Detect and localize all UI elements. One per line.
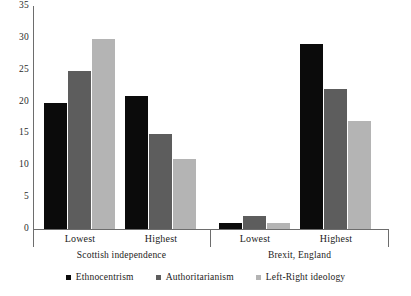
y-tick-5: 5 [24, 192, 29, 202]
category-label-brexit-highest: Highest [300, 233, 372, 245]
legend-label-left-right-ideology: Left-Right ideology [266, 272, 346, 282]
y-tick-35: 35 [19, 1, 29, 11]
bar-group-brexit-lowest [219, 6, 291, 229]
legend-swatch-icon-ethnocentrism [66, 275, 71, 280]
legend-label-authoritarianism: Authoritarianism [166, 272, 234, 282]
bar-authoritarianism-scottish-highest [149, 134, 172, 229]
bar-group-scottish-lowest [44, 6, 116, 229]
bar-left-right-ideology-brexit-lowest [267, 223, 290, 229]
bar-ethnocentrism-brexit-highest [300, 44, 323, 229]
y-tick-25: 25 [19, 65, 29, 75]
chart-legend: Ethnocentrism Authoritarianism Left-Righ… [0, 272, 411, 282]
bar-left-right-ideology-brexit-highest [348, 121, 371, 229]
panel-separator [210, 229, 211, 247]
y-tick-10: 10 [19, 161, 29, 171]
legend-swatch-icon-left-right-ideology [256, 275, 261, 280]
panel-label-scottish-independence: Scottish independence [33, 250, 210, 261]
category-label-scottish-lowest: Lowest [44, 233, 116, 245]
axis-tick-right-end [388, 229, 389, 247]
legend-item-authoritarianism: Authoritarianism [156, 272, 234, 282]
axis-tick-left-end [33, 229, 34, 247]
bar-group-brexit-highest [300, 6, 372, 229]
bar-left-right-ideology-scottish-highest [173, 159, 196, 229]
bar-left-right-ideology-scottish-lowest [92, 39, 115, 229]
legend-swatch-icon-authoritarianism [156, 275, 161, 280]
bar-authoritarianism-scottish-lowest [68, 71, 91, 229]
y-tick-15: 15 [19, 129, 29, 139]
bar-group-scottish-highest [125, 6, 197, 229]
bar-chart: 35 30 25 20 15 10 5 0 [0, 0, 411, 296]
y-tick-0: 0 [24, 224, 29, 234]
panel-label-brexit-england: Brexit, England [211, 250, 388, 261]
bar-ethnocentrism-scottish-highest [125, 96, 148, 229]
y-tick-20: 20 [19, 97, 29, 107]
plot-area [34, 6, 388, 229]
legend-item-ethnocentrism: Ethnocentrism [66, 272, 134, 282]
y-axis-tick-labels: 35 30 25 20 15 10 5 0 [0, 0, 29, 296]
category-label-brexit-lowest: Lowest [219, 233, 291, 245]
bar-ethnocentrism-brexit-lowest [219, 223, 242, 229]
bar-authoritarianism-brexit-highest [324, 89, 347, 229]
legend-item-left-right-ideology: Left-Right ideology [256, 272, 346, 282]
bar-authoritarianism-brexit-lowest [243, 216, 266, 229]
legend-label-ethnocentrism: Ethnocentrism [76, 272, 134, 282]
y-tick-30: 30 [19, 33, 29, 43]
category-label-scottish-highest: Highest [125, 233, 197, 245]
bar-ethnocentrism-scottish-lowest [44, 103, 67, 229]
